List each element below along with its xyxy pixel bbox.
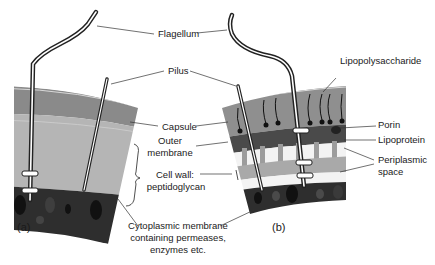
label-outer-membrane-2: membrane — [147, 147, 192, 158]
label-cytoplasmic-2: containing permeases, — [130, 232, 226, 243]
panel-b-envelope: (b) — [200, 15, 360, 240]
porin — [331, 126, 341, 134]
panel-label-a: (a) — [17, 221, 30, 233]
label-flagellum: Flagellum — [158, 28, 199, 39]
label-lipoprotein: Lipoprotein — [378, 134, 425, 145]
label-periplasmic-2: space — [378, 166, 403, 177]
label-capsule: Capsule — [162, 121, 197, 132]
panel-label-b: (b) — [272, 221, 285, 233]
bacterial-cell-envelope-diagram: (a) — [0, 0, 435, 265]
cell-wall-layer-a — [0, 114, 150, 198]
label-lipopolysaccharide: Lipopolysaccharide — [340, 55, 421, 66]
panel-a-envelope: (a) — [0, 12, 150, 250]
cytoplasmic-membrane-a — [0, 186, 150, 250]
label-cell-wall-1: Cell wall: — [156, 169, 194, 180]
label-cytoplasmic-3: enzymes etc. — [150, 244, 206, 255]
cell-wall-brace — [126, 144, 140, 206]
label-cytoplasmic-1: Cytoplasmic membrane — [128, 220, 228, 231]
label-periplasmic-1: Periplasmic — [378, 154, 427, 165]
label-cell-wall-2: peptidoglycan — [147, 181, 206, 192]
label-porin: Porin — [378, 119, 400, 130]
label-outer-membrane-1: Outer — [158, 135, 182, 146]
label-pilus: Pilus — [168, 65, 189, 76]
